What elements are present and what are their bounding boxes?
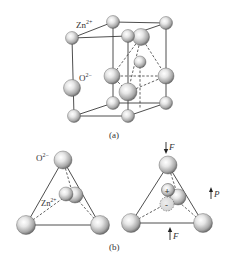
figure-canvas: Zn2+ O2− (a) O2− Zn2+ + -	[0, 0, 231, 263]
zn-atom	[107, 97, 120, 110]
o-atom-left	[122, 214, 141, 233]
o-label-b: O2−	[36, 152, 50, 163]
tetrahedron-dashes	[112, 37, 166, 108]
o-atom	[133, 29, 150, 46]
o-label: O2−	[79, 72, 93, 83]
force-label-top: F	[168, 142, 175, 152]
zn-atom	[160, 97, 173, 110]
zn-label-b: Zn2+	[41, 197, 56, 208]
plus-sign: +	[165, 186, 170, 196]
o-atom-left	[17, 216, 36, 235]
force-arrow-down-icon	[164, 142, 168, 154]
zn-atom	[160, 17, 173, 30]
zn-atom	[66, 32, 79, 45]
o-atom	[64, 80, 81, 97]
o-atom-right	[91, 216, 110, 235]
zn-atom	[68, 110, 81, 123]
panel-a-unit-cell: Zn2+ O2− (a)	[64, 16, 175, 141]
o-atom	[119, 83, 137, 101]
atoms	[64, 16, 175, 123]
o-atom-right	[194, 214, 213, 233]
caption-a: (a)	[109, 130, 119, 140]
zn-atom	[107, 16, 120, 29]
piezoelectric-zno-figure: Zn2+ O2− (a) O2− Zn2+ + -	[0, 0, 231, 263]
caption-b: (b)	[109, 242, 120, 252]
force-label-bottom: F	[172, 231, 179, 241]
force-arrow-up-icon	[168, 227, 172, 240]
zn-label: Zn2+	[76, 19, 93, 30]
polarization-arrow-icon	[209, 187, 213, 199]
minus-sign: -	[165, 200, 168, 210]
polarization-label: P	[213, 189, 220, 199]
zn-atom	[122, 30, 135, 43]
zn-atom-center	[59, 187, 73, 201]
o-atom	[104, 68, 120, 84]
o-atom	[158, 68, 174, 84]
o-atom-top	[54, 151, 72, 169]
zn-atom	[122, 110, 135, 123]
o-atom-top	[159, 156, 177, 174]
panel-b-strained-tetrahedron: + - F F P	[122, 142, 221, 241]
panel-b-unstrained-tetrahedron: O2− Zn2+	[17, 151, 110, 235]
zn-center-atom	[134, 56, 146, 68]
